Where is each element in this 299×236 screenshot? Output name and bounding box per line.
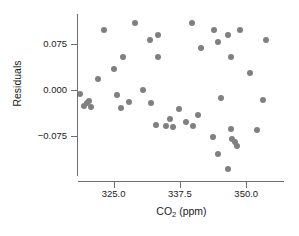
y-axis-line: [77, 14, 78, 176]
data-point: [77, 91, 83, 97]
data-point: [198, 45, 204, 51]
data-point: [120, 54, 126, 60]
data-point: [228, 54, 234, 60]
y-axis-tick: [71, 90, 77, 91]
data-point: [88, 104, 94, 110]
data-point: [254, 127, 260, 133]
data-point: [195, 112, 201, 118]
x-axis-title-subscript: 2: [172, 210, 176, 219]
x-axis-tick-label: 325.0: [102, 189, 126, 199]
data-point: [126, 99, 132, 105]
scatter-chart-figure: 0.0750.000−0.075 325.0337.5350.0 Residua…: [0, 0, 299, 236]
data-point: [237, 27, 243, 33]
y-axis-tick-label: 0.000: [43, 85, 67, 95]
plot-area: [78, 14, 285, 175]
data-point: [218, 95, 224, 101]
data-point: [118, 105, 124, 111]
data-point: [210, 134, 216, 140]
data-point: [163, 123, 169, 129]
x-axis-title: CO2 (ppm): [78, 205, 285, 219]
data-point: [101, 27, 107, 33]
data-point: [215, 39, 221, 45]
x-axis-title-prefix: CO: [156, 205, 172, 217]
data-point: [189, 20, 195, 26]
y-axis-tick-label: 0.075: [43, 39, 67, 49]
data-point: [228, 126, 234, 132]
data-point: [167, 116, 173, 122]
data-point: [147, 37, 153, 43]
data-point: [247, 70, 253, 76]
data-point: [225, 32, 231, 38]
data-point: [260, 97, 266, 103]
data-point: [148, 100, 154, 106]
data-point: [190, 123, 196, 129]
data-point: [176, 106, 182, 112]
x-axis-line: [78, 181, 284, 182]
y-axis-tick: [71, 136, 77, 137]
x-axis-title-suffix: (ppm): [176, 205, 206, 217]
data-point: [225, 166, 231, 172]
data-point: [234, 143, 240, 149]
data-point: [140, 87, 146, 93]
data-point: [111, 66, 117, 72]
data-point: [215, 151, 221, 157]
data-point: [153, 122, 159, 128]
data-point: [155, 54, 161, 60]
data-point: [95, 76, 101, 82]
data-point: [183, 119, 189, 125]
y-axis-title: Residuals: [12, 34, 23, 134]
data-point: [132, 20, 138, 26]
data-point: [81, 103, 87, 109]
x-axis-tick-label: 337.5: [168, 189, 192, 199]
data-point: [211, 27, 217, 33]
y-axis-tick: [71, 44, 77, 45]
data-point: [263, 37, 269, 43]
data-point: [170, 124, 176, 130]
data-point: [114, 92, 120, 98]
x-axis-tick-label: 350.0: [234, 189, 258, 199]
data-point: [155, 32, 161, 38]
y-axis-tick-label: −0.075: [38, 131, 67, 141]
